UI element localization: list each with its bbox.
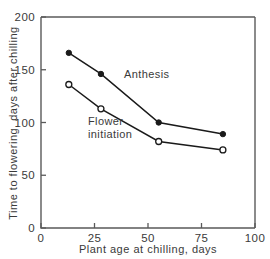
axis-lines — [41, 17, 255, 228]
series-annotation: initiation — [88, 128, 132, 140]
y-tick-label: 50 — [21, 169, 35, 181]
data-point — [156, 138, 162, 144]
chart-figure: 050100150200 0255075100 AnthesisFlowerin… — [0, 0, 270, 259]
data-point — [98, 106, 104, 112]
data-point — [66, 50, 71, 55]
data-point — [220, 147, 226, 153]
data-point — [98, 71, 103, 76]
x-tick-label: 0 — [38, 232, 45, 244]
series-annotation: Anthesis — [124, 68, 169, 80]
x-axis-title: Plant age at chilling, days — [79, 243, 217, 255]
series-annotation: Flower — [88, 115, 123, 127]
chart-canvas: 050100150200 0255075100 AnthesisFlowerin… — [0, 0, 270, 259]
data-point — [220, 131, 225, 136]
data-point — [66, 82, 72, 88]
axes-frame — [41, 17, 255, 228]
data-point — [156, 120, 161, 125]
y-tick-label: 0 — [28, 222, 35, 234]
series-annotations: AnthesisFlowerinitiation — [88, 68, 169, 140]
x-tick-label: 100 — [245, 232, 265, 244]
y-tick-label: 200 — [15, 11, 35, 23]
y-axis-title: Time to flowering, days after chilling — [7, 26, 19, 219]
x-axis-ticks: 0255075100 — [38, 223, 266, 244]
